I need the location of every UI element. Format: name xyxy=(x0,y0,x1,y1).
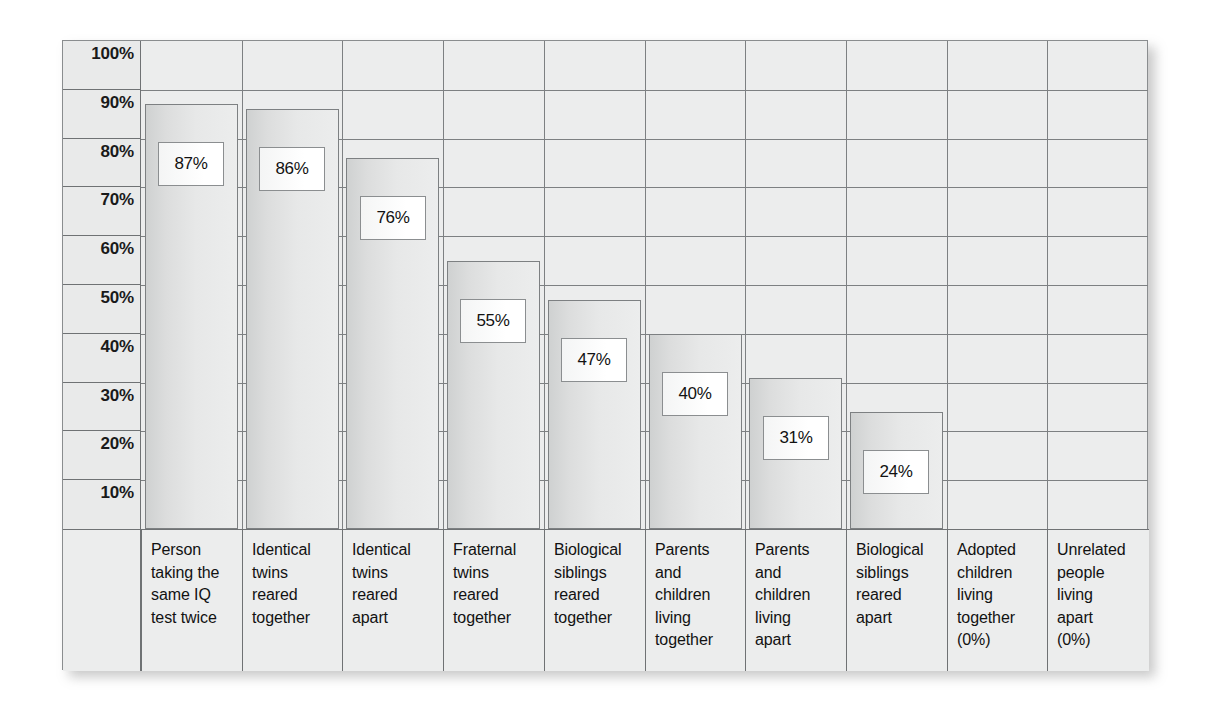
category-label: Parents and children living together xyxy=(645,530,746,671)
grid-line-vertical xyxy=(1047,41,1048,529)
y-band: 80% xyxy=(63,139,140,188)
y-tick-label: 40% xyxy=(63,337,134,357)
y-band: 100% xyxy=(63,41,140,90)
grid-line-vertical xyxy=(645,41,646,529)
bar xyxy=(548,300,641,529)
y-band: 30% xyxy=(63,383,140,432)
plot-area: 87%86%76%55%47%40%31%24% xyxy=(141,41,1148,529)
y-band: 70% xyxy=(63,187,140,236)
category-label: Biological siblings reared apart xyxy=(846,530,947,671)
bar-value-label: 47% xyxy=(561,338,627,382)
axis-corner-cell xyxy=(63,530,141,671)
y-band: 60% xyxy=(63,236,140,285)
y-band: 90% xyxy=(63,90,140,139)
y-band: 40% xyxy=(63,334,140,383)
y-tick-label: 100% xyxy=(63,44,134,64)
y-band: 50% xyxy=(63,285,140,334)
category-label: Fraternal twins reared together xyxy=(443,530,544,671)
category-label-row: Person taking the same IQ test twiceIden… xyxy=(63,530,1149,671)
grid-line-vertical xyxy=(745,41,746,529)
bar-value-label: 86% xyxy=(259,147,325,191)
y-tick-label: 90% xyxy=(63,93,134,113)
category-label: Biological siblings reared together xyxy=(544,530,645,671)
bar-value-label: 24% xyxy=(863,450,929,494)
bar-value-label: 87% xyxy=(158,142,224,186)
category-label: Unrelated people living apart (0%) xyxy=(1047,530,1148,671)
y-tick-label: 70% xyxy=(63,190,134,210)
grid-line-vertical xyxy=(342,41,343,529)
y-tick-label: 20% xyxy=(63,434,134,454)
grid-line-vertical xyxy=(947,41,948,529)
grid-line-vertical xyxy=(544,41,545,529)
category-label: Parents and children living apart xyxy=(745,530,846,671)
y-tick-label: 60% xyxy=(63,239,134,259)
bar-value-label: 40% xyxy=(662,372,728,416)
y-axis: 100% 90% 80% 70% 60% 50% 40% 30% 20% 10% xyxy=(63,41,141,529)
y-tick-label: 50% xyxy=(63,288,134,308)
bar-value-label: 76% xyxy=(360,196,426,240)
grid-line-vertical xyxy=(242,41,243,529)
y-band: 20% xyxy=(63,431,140,480)
grid-line-vertical xyxy=(846,41,847,529)
category-label: Identical twins reared apart xyxy=(342,530,443,671)
grid-line-vertical xyxy=(443,41,444,529)
category-label: Identical twins reared together xyxy=(242,530,343,671)
y-tick-label: 30% xyxy=(63,386,134,406)
y-band: 10% xyxy=(63,480,140,529)
y-tick-label: 10% xyxy=(63,483,134,503)
bar-value-label: 55% xyxy=(460,299,526,343)
category-label: Adopted children living together (0%) xyxy=(947,530,1048,671)
y-tick-label: 80% xyxy=(63,142,134,162)
chart-frame: 100% 90% 80% 70% 60% 50% 40% 30% 20% 10%… xyxy=(62,40,1148,670)
screenshot-root: 100% 90% 80% 70% 60% 50% 40% 30% 20% 10%… xyxy=(0,0,1217,718)
bar xyxy=(649,334,742,529)
bar-value-label: 31% xyxy=(763,416,829,460)
category-label: Person taking the same IQ test twice xyxy=(141,530,242,671)
